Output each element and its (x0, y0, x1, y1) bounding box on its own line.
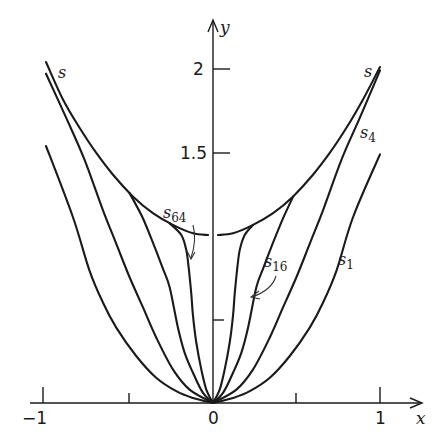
label-s64: s64 (163, 203, 187, 225)
label-s16: s16 (264, 252, 288, 274)
label-s1: s1 (338, 250, 354, 272)
curve-s64-right (213, 225, 253, 403)
curve-s4-right (213, 70, 380, 403)
label-s4-base: s (360, 123, 368, 142)
label-s64-base: s (163, 203, 171, 222)
figure: −1 0 1 x 2 1.5 y s s s4 s1 s64 s16 (0, 0, 448, 442)
curve-s4-left (46, 74, 213, 403)
label-s-left: s (58, 63, 66, 82)
y-tick-label-1-5: 1.5 (180, 143, 207, 163)
label-s16-sub: 16 (272, 260, 287, 274)
curve-s64-left (170, 223, 213, 403)
x-tick-label-minus1: −1 (22, 408, 47, 428)
label-s1-sub: 1 (346, 258, 354, 272)
y-tick-label-2: 2 (193, 59, 204, 79)
curve-labels: s s s4 s1 s64 s16 (58, 62, 376, 299)
label-s4: s4 (360, 123, 376, 145)
x-axis-label: x (416, 408, 426, 428)
x-tick-label-0: 0 (208, 408, 219, 428)
label-s16-base: s (264, 252, 272, 271)
x-tick-label-1: 1 (375, 408, 386, 428)
y-axis-label: y (219, 17, 230, 37)
label-s-right: s (364, 62, 372, 81)
label-s1-base: s (338, 250, 346, 269)
label-s64-sub: 64 (171, 211, 187, 225)
label-s4-sub: 4 (368, 131, 376, 145)
